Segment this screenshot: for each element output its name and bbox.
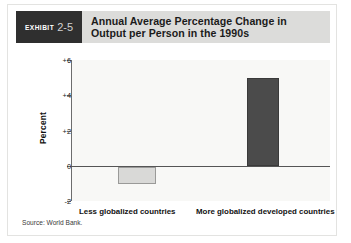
title-line-1: Annual Average Percentage Change in: [91, 15, 330, 27]
title-line-2: Output per Person in the 1990s: [91, 27, 330, 39]
y-tick-label-2: +2: [25, 127, 71, 136]
bar-more-globalized: [247, 78, 279, 166]
source-note: Source: World Bank.: [22, 219, 82, 226]
x-axis-labels: Less globalized countries More globalize…: [71, 207, 337, 221]
x-label-more-globalized: More globalized developed countries: [196, 207, 335, 216]
y-tick-label-minus2: -2: [25, 197, 71, 206]
exhibit-number: 2-5: [57, 22, 73, 33]
bar-less-globalized: [118, 167, 156, 185]
y-tick-label-6: +6: [25, 56, 71, 65]
chart-area: Percent +6 +4 +2 0 -2 Less g: [16, 49, 330, 215]
zero-baseline: [71, 166, 330, 167]
plot-background: [71, 60, 330, 201]
exhibit-badge: EXHIBIT 2-5: [16, 11, 82, 43]
page-title: Annual Average Percentage Change in Outp…: [82, 11, 330, 43]
x-label-less-globalized: Less globalized countries: [79, 207, 175, 216]
exhibit-label: EXHIBIT: [25, 24, 54, 31]
exhibit-card: EXHIBIT 2-5 Annual Average Percentage Ch…: [7, 4, 337, 236]
y-tick-label-4: +4: [25, 91, 71, 100]
y-axis-line: [71, 60, 72, 201]
exhibit-header: EXHIBIT 2-5 Annual Average Percentage Ch…: [16, 11, 330, 43]
y-tick-label-0: 0: [25, 162, 71, 171]
